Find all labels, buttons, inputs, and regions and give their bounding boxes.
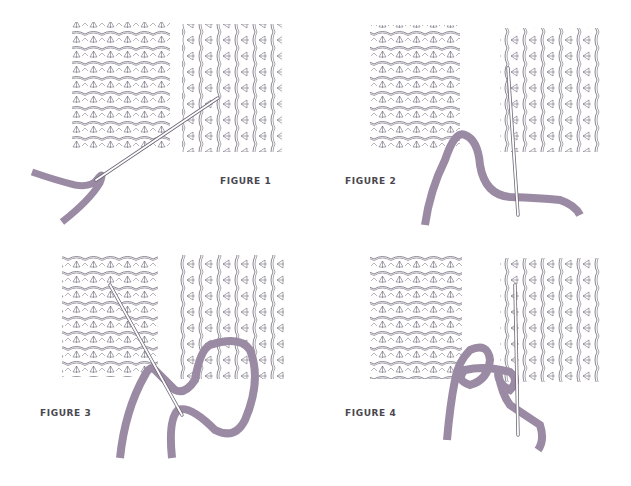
figure-1: FIGURE 1 [32,22,282,222]
figure-2: FIGURE 2 [345,25,600,225]
figure-3-label: FIGURE 3 [40,408,91,418]
knit-swatch-right [500,28,600,152]
figure-1-label: FIGURE 1 [220,176,271,186]
figure-3: FIGURE 3 [40,253,284,458]
knit-swatch-left [370,255,462,379]
knit-swatch-left [370,25,460,150]
yarn-strand [32,172,102,222]
figure-4-label: FIGURE 4 [345,408,396,418]
knit-swatch-left [62,253,158,377]
figure-2-label: FIGURE 2 [345,176,396,186]
figure-4: FIGURE 4 [345,255,600,450]
seaming-diagram: FIGURE 1 FIGURE 2 FIGURE 3 FIGURE 4 [0,0,631,486]
knit-swatch-left [72,22,170,150]
knit-swatch-right [182,24,282,152]
